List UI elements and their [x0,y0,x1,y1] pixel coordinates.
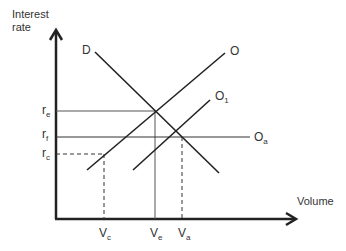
volume-label-ve: Ve [150,226,163,242]
supply-label: O [230,44,239,58]
rate-label-rc: rc [42,146,50,162]
demand-curve [95,52,219,173]
rate-label-re: re [42,103,51,119]
supply-flat-label: Oa [254,130,268,146]
volume-label-va: Va [178,226,191,242]
rate-label-rf: rf [42,127,49,143]
supply-demand-diagram: Interest rate Volume D O O1 Oa re rf rc … [0,0,346,251]
supply-shifted-label: O1 [215,89,229,105]
demand-label: D [82,43,91,57]
x-axis-label: Volume [297,195,334,207]
y-axis-label-line1: Interest [12,8,49,20]
y-axis-label-line2: rate [12,21,31,33]
volume-label-vc: Vc [99,226,111,242]
